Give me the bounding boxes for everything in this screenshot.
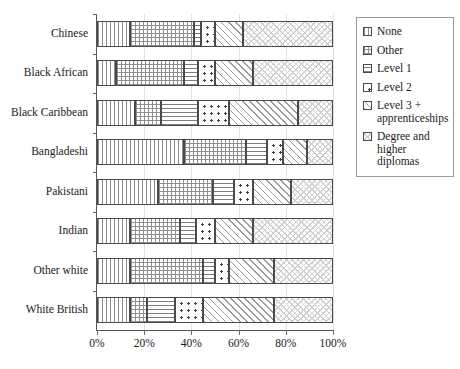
- bar-segment: [274, 297, 333, 323]
- bar-segment: [291, 179, 333, 205]
- value-axis-tick: [191, 330, 192, 335]
- bar-segment: [198, 60, 215, 86]
- bar-segment: [147, 297, 175, 323]
- legend-label: Other: [377, 44, 403, 57]
- value-axis-tick: [144, 330, 145, 335]
- category-axis-label: Other white: [33, 264, 88, 277]
- bar-segment: [201, 21, 215, 47]
- bar-segment: [175, 297, 203, 323]
- bar-row: [97, 60, 333, 86]
- bar-segment: [213, 179, 234, 205]
- bar-row: [97, 139, 333, 165]
- bar-segment: [203, 258, 215, 284]
- value-axis-tick-label: 20%: [122, 337, 166, 349]
- category-axis-label: Pakistani: [46, 185, 88, 198]
- bar-segment: [283, 139, 307, 165]
- value-axis-tick: [286, 330, 287, 335]
- legend-swatch-icon: [363, 83, 372, 92]
- bar-row: [97, 218, 333, 244]
- value-axis-tick-label: 0%: [75, 337, 119, 349]
- category-axis-tick: [93, 291, 97, 292]
- category-axis-label: Indian: [59, 224, 88, 237]
- bar-segment: [203, 297, 274, 323]
- legend-item: Degree and higher diplomas: [363, 130, 448, 168]
- bar-segment: [180, 218, 197, 244]
- legend-swatch-icon: [363, 27, 372, 36]
- legend-swatch-icon: [363, 101, 372, 110]
- category-axis-label: Black African: [24, 66, 88, 79]
- bar-row: [97, 21, 333, 47]
- bar-segment: [130, 21, 194, 47]
- bar-segment: [215, 258, 229, 284]
- legend-swatch-icon: [363, 64, 372, 73]
- bar-segment: [97, 139, 184, 165]
- category-axis-tick: [93, 54, 97, 55]
- bar-segment: [130, 218, 180, 244]
- bar-segment: [198, 100, 229, 126]
- category-axis-tick: [93, 14, 97, 15]
- bar-segment: [215, 21, 243, 47]
- bar-segment: [130, 258, 203, 284]
- category-axis-label: Black Caribbean: [11, 106, 88, 119]
- value-axis-tick-label: 60%: [217, 337, 261, 349]
- bar-segment: [194, 21, 201, 47]
- bar-segment: [267, 139, 284, 165]
- bar-segment: [229, 258, 274, 284]
- value-axis-tick-label: 100%: [311, 337, 355, 349]
- legend-item: Level 2: [363, 81, 448, 94]
- legend-item: None: [363, 25, 448, 38]
- bar-segment: [215, 218, 253, 244]
- bar-row: [97, 297, 333, 323]
- gridline: [333, 14, 334, 330]
- bar-segment: [274, 258, 333, 284]
- category-axis-label: Chinese: [51, 27, 88, 40]
- legend-label: None: [377, 25, 402, 38]
- legend-label: Degree and higher diplomas: [377, 130, 448, 168]
- bar-segment: [97, 179, 158, 205]
- legend-item: Other: [363, 44, 448, 57]
- bar-row: [97, 179, 333, 205]
- value-axis-tick-label: 40%: [169, 337, 213, 349]
- category-axis-tick: [93, 93, 97, 94]
- bar-segment: [97, 60, 116, 86]
- bar-segment: [184, 60, 198, 86]
- category-axis-label: Bangladeshi: [31, 145, 88, 158]
- stacked-bar-chart: 0%20%40%60%80%100% ChineseBlack AfricanB…: [0, 0, 460, 369]
- bar-segment: [215, 60, 253, 86]
- legend-item: Level 1: [363, 62, 448, 75]
- bar-segment: [184, 139, 245, 165]
- legend-label: Level 3 + apprenticeships: [377, 99, 449, 124]
- bar-segment: [97, 21, 130, 47]
- category-axis-tick: [93, 133, 97, 134]
- bar-segment: [229, 100, 297, 126]
- value-axis-tick-label: 80%: [264, 337, 308, 349]
- legend-label: Level 1: [377, 62, 412, 75]
- value-axis-tick: [333, 330, 334, 335]
- bar-segment: [196, 218, 215, 244]
- chart-legend: NoneOtherLevel 1Level 2Level 3 + apprent…: [356, 17, 454, 177]
- bar-segment: [97, 297, 130, 323]
- bar-segment: [97, 258, 130, 284]
- bar-segment: [307, 139, 333, 165]
- category-axis-tick: [93, 251, 97, 252]
- value-axis-line: [96, 330, 334, 331]
- value-axis-tick: [97, 330, 98, 335]
- bar-segment: [253, 60, 333, 86]
- bar-segment: [298, 100, 333, 126]
- category-axis-tick: [93, 212, 97, 213]
- bar-row: [97, 258, 333, 284]
- bar-segment: [234, 179, 253, 205]
- bar-segment: [253, 218, 333, 244]
- bar-segment: [116, 60, 184, 86]
- bar-segment: [253, 179, 291, 205]
- category-axis-label: White British: [26, 303, 88, 316]
- bar-segment: [161, 100, 199, 126]
- bar-row: [97, 100, 333, 126]
- bar-segment: [97, 100, 135, 126]
- bar-segment: [135, 100, 161, 126]
- legend-swatch-icon: [363, 46, 372, 55]
- legend-swatch-icon: [363, 132, 372, 141]
- bar-segment: [243, 21, 333, 47]
- category-axis-tick: [93, 172, 97, 173]
- legend-item: Level 3 + apprenticeships: [363, 99, 448, 124]
